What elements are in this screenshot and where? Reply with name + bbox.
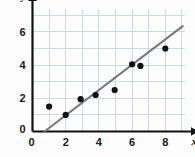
- x-tick-label: 8: [162, 136, 168, 148]
- data-point: (1, 1.5): [46, 104, 52, 110]
- axes: [33, 0, 193, 131]
- x-tick-label: 4: [96, 136, 103, 148]
- y-axis-label: y: [19, 0, 26, 2]
- x-axis-label: x: [190, 135, 195, 147]
- data-point: (6.5, 3.95): [137, 63, 143, 69]
- data-point: (8, 5): [162, 45, 168, 51]
- axis-tick-labels: 246824600yx: [19, 0, 195, 147]
- data-point: (6, 4.05): [129, 61, 135, 67]
- chart-canvas: (1, 1.5)(2, 1)(2.9, 1.95)(3.8, 2.2)(4.95…: [0, 0, 195, 157]
- data-point: (2.9, 1.95): [78, 96, 84, 102]
- y-tick-label: 2: [19, 92, 25, 104]
- scatter-plot-figure: (1, 1.5)(2, 1)(2.9, 1.95)(3.8, 2.2)(4.95…: [0, 0, 195, 157]
- data-point: (4.95, 2.5): [112, 87, 118, 93]
- x-tick-label: 6: [129, 136, 135, 148]
- data-point: (2, 1): [63, 112, 69, 118]
- data-point: (3.8, 2.2): [92, 92, 98, 98]
- origin-label-y: 0: [19, 123, 25, 135]
- y-tick-label: 6: [19, 26, 25, 38]
- x-tick-label: 2: [63, 136, 69, 148]
- y-tick-label: 4: [19, 59, 26, 71]
- gridlines: [33, 9, 186, 132]
- origin-label-x: 0: [28, 136, 34, 148]
